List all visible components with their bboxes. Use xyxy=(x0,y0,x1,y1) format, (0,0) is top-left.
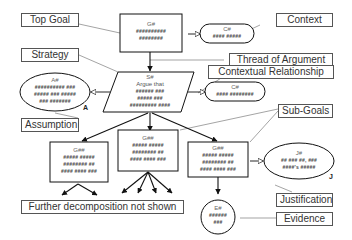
label-justification: Justification xyxy=(276,193,333,207)
assumption-tag: A xyxy=(83,104,88,111)
label-contextual-relationship: Contextual Relationship xyxy=(208,65,334,79)
node-subgoal-left: G## ##### ##### ######## ## #### #### ##… xyxy=(50,147,108,175)
justification-tag: J xyxy=(329,173,333,180)
node-context-top: C# #### ##### xyxy=(200,26,254,40)
label-further-decomposition: Further decomposition not shown xyxy=(21,200,184,214)
label-evidence: Evidence xyxy=(276,212,333,226)
node-context-strategy: C# #### ######## xyxy=(205,84,265,98)
node-text-line: #### #### ### xyxy=(188,166,248,173)
node-text-line: #### ##### xyxy=(200,33,254,40)
node-text-line: ### ####### xyxy=(20,98,90,105)
node-id: G# xyxy=(120,21,182,28)
node-id: A# xyxy=(20,77,90,84)
node-id: C# xyxy=(200,26,254,33)
label-sub-goals: Sub-Goals xyxy=(278,104,333,118)
node-text-line: ########## ### xyxy=(20,84,90,91)
node-text-line: ######### #### xyxy=(112,102,188,109)
node-text-line: ##### ##### xyxy=(118,142,178,149)
node-id: G## xyxy=(118,135,178,142)
node-text-line: ###### ### xyxy=(112,88,188,95)
node-text-line: #### #### ### xyxy=(118,156,178,163)
node-evidence: E# ###### ### xyxy=(201,205,235,226)
node-id: E# xyxy=(201,205,235,212)
node-text-line: ##### ##### xyxy=(188,152,248,159)
node-text-line: ##### ##### xyxy=(50,154,108,161)
node-text-line: ######## ## xyxy=(50,161,108,168)
node-id: C# xyxy=(205,84,265,91)
node-assumption: A# ########## ### ##### ### ##### ### ##… xyxy=(20,77,90,105)
node-justification: J# ## ### ##, ### ####'s ##### xyxy=(264,150,334,171)
node-id: S# xyxy=(112,74,188,81)
node-text-line: ########## xyxy=(120,28,182,35)
node-strategy: S# Argue that ###### ### ##### ### #####… xyxy=(112,74,188,109)
label-assumption: Assumption xyxy=(21,118,79,132)
node-subgoal-mid: G## ##### ##### ######## ## #### #### ##… xyxy=(118,135,178,163)
node-top-goal: G# ########## ######## xyxy=(120,21,182,42)
node-text-line: #### ######## xyxy=(205,91,265,98)
node-text-line: ## ### ##, ### xyxy=(264,157,334,164)
node-id: G## xyxy=(50,147,108,154)
node-id: J# xyxy=(264,150,334,157)
label-context: Context xyxy=(276,13,333,27)
node-text-line: #### #### ### xyxy=(50,168,108,175)
node-text-line: ### xyxy=(201,219,235,226)
node-subgoal-right: G## ##### ##### ######## ## #### #### ##… xyxy=(188,145,248,173)
node-text-line: ######## ## xyxy=(118,149,178,156)
node-text-line: ######## ## xyxy=(188,159,248,166)
node-text-line: ##### ### ##### xyxy=(20,91,90,98)
label-strategy: Strategy xyxy=(21,48,79,62)
node-id: G## xyxy=(188,145,248,152)
node-text-line: ######## xyxy=(120,35,182,42)
node-text-line: ##### ### xyxy=(112,95,188,102)
node-text-line: ####'s ##### xyxy=(264,164,334,171)
node-text-line: ###### xyxy=(201,212,235,219)
node-text-line: Argue that xyxy=(112,81,188,88)
label-top-goal: Top Goal xyxy=(21,13,79,27)
